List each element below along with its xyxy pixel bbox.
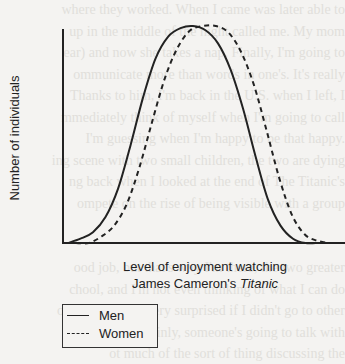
book-page: where they worked. When I came was later… <box>0 0 345 364</box>
dashed-line-swatch-icon <box>67 333 89 334</box>
x-axis-label-line2: James Cameron's Titanic <box>105 275 305 292</box>
legend-label-men: Men <box>99 308 124 323</box>
women-curve <box>76 25 330 243</box>
men-curve <box>68 26 318 243</box>
y-axis-label: Number of individuals <box>7 75 22 200</box>
legend-label-women: Women <box>99 326 144 341</box>
x-axis-label-line1: Level of enjoyment watching <box>105 258 305 275</box>
distribution-chart <box>0 0 345 364</box>
plot-area <box>62 25 345 244</box>
legend-item-women: Women <box>67 326 144 341</box>
legend-item-men: Men <box>67 308 124 323</box>
x-axis-label-prefix: James Cameron's <box>132 276 240 291</box>
x-axis-label-title: Titanic <box>240 276 278 291</box>
solid-line-swatch-icon <box>67 315 89 316</box>
legend: Men Women <box>62 304 158 348</box>
